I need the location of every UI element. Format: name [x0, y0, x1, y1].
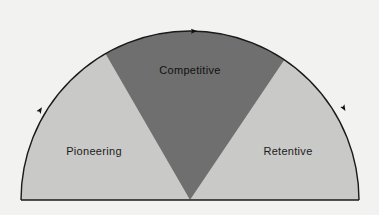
segment-label-retentive: Retentive	[263, 145, 312, 157]
segment-label-pioneering: Pioneering	[66, 145, 122, 157]
diagram-canvas: Pioneering Competitive Retentive	[0, 0, 379, 215]
semicircle-diagram: Pioneering Competitive Retentive	[0, 0, 379, 215]
segment-label-competitive: Competitive	[159, 64, 220, 76]
